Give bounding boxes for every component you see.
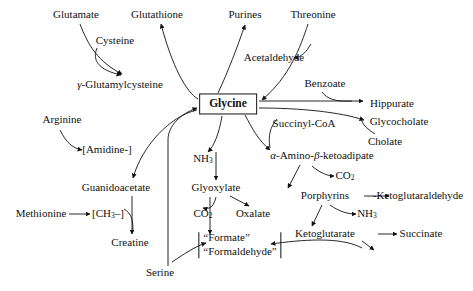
node-cysteine[interactable]: Cysteine	[96, 35, 135, 47]
arrow-ketoadipate-to-co2	[312, 166, 334, 176]
bracket-lines: “Formate” “Formaldehyde”	[203, 231, 276, 259]
node-benzoate[interactable]: Benzoate	[305, 78, 346, 90]
node-glyoxylate[interactable]: Glyoxylate	[192, 182, 241, 194]
arrow-arginine-to-amidine	[60, 130, 82, 150]
arrow-glycine-to-nh3	[208, 116, 222, 152]
arrow-aminolevulinate-to-nh3	[330, 205, 356, 214]
co2-right-pre: CO	[335, 169, 350, 181]
arrow-glyoxylate-to-oxalate	[230, 196, 249, 206]
nh3-upper-pre: NH	[193, 152, 209, 164]
node-porphyrins[interactable]: -Ketoglutaraldehyde	[373, 190, 463, 202]
co2-left-pre: CO	[193, 207, 208, 219]
co2-right-sub: 2	[351, 173, 355, 182]
node-glycine[interactable]: Glycine	[199, 93, 257, 114]
formate-label: “Formate”	[203, 231, 276, 245]
node-co2-left[interactable]: CO2	[193, 208, 212, 221]
node-gamma-glutamylcysteine[interactable]: γ-Glutamylcysteine	[77, 79, 163, 91]
node-methyl-group[interactable]: [CH3–]	[92, 208, 124, 221]
methyl-post: –]	[115, 207, 124, 219]
node-cholate[interactable]: Cholate	[368, 136, 402, 148]
arrow-benzoate-to-hippurate	[322, 92, 352, 101]
co2-left-sub: 2	[209, 211, 213, 220]
node-threonine[interactable]: Threonine	[290, 9, 335, 21]
node-glycocholate[interactable]: Glycocholate	[370, 116, 429, 128]
node-creatine[interactable]: Creatine	[111, 237, 148, 249]
node-acetaldehyde[interactable]: Acetaldehyde	[244, 52, 304, 64]
node-alpha-amino-beta-ketoadipate[interactable]: α-Amino-β-ketoadipate	[270, 150, 374, 162]
node-glutamate[interactable]: Glutamate	[53, 9, 99, 21]
left-bracket-bar	[198, 232, 199, 258]
arrow-glycine-to-glutathione	[161, 24, 198, 99]
right-bracket-bar	[281, 232, 282, 258]
node-succinyl-coa[interactable]: Succinyl-CoA	[273, 118, 336, 130]
node-arginine[interactable]: Arginine	[43, 114, 82, 126]
ketoadipate-mid: -Amino-	[276, 149, 314, 161]
formaldehyde-label: “Formaldehyde”	[203, 245, 276, 259]
ketoadipate-end: -ketoadipate	[319, 149, 373, 161]
arrow-ketoglutaraldehyde-to-succinate	[362, 241, 374, 250]
node-amidine[interactable]: [Amidine-]	[82, 144, 131, 156]
node-oxalate[interactable]: Oxalate	[236, 208, 270, 220]
methyl-pre: [CH	[92, 207, 111, 219]
arrow-glycine-to-guanidoacetate	[133, 110, 197, 178]
node-gamma-glutamylcysteine-label: -Glutamylcysteine	[82, 78, 163, 90]
glycine-pathway-diagram: Glycine Glutamate Cysteine Glutathione γ…	[0, 0, 473, 291]
node-delta-aminolevulinate[interactable]: Porphyrins	[301, 190, 349, 202]
node-alpha-ketoglutaraldehyde[interactable]: Ketoglutarate	[295, 228, 355, 240]
nh3-lower-sub: 3	[373, 211, 377, 220]
node-hippurate[interactable]: Hippurate	[370, 98, 414, 110]
arrow-glycine-to-ketoadipate	[245, 115, 270, 150]
nh3-upper-sub: 3	[209, 156, 213, 165]
node-co2-right[interactable]: CO2	[335, 170, 354, 183]
arrow-glycine-to-purines	[218, 25, 245, 93]
node-methionine[interactable]: Methionine	[16, 208, 67, 220]
nh3-lower-pre: NH	[357, 207, 373, 219]
node-purines[interactable]: Purines	[229, 9, 262, 21]
node-delta-aminolevulinate-label: Porphyrins	[301, 189, 349, 201]
arrow-aminolevulinate-to-ketoglutaraldehyde	[312, 205, 322, 226]
node-guanidoacetate[interactable]: Guanidoacetate	[82, 182, 150, 194]
node-alpha-ketoglutaraldehyde-label: Ketoglutarate	[295, 227, 355, 239]
node-ammonia-lower[interactable]: NH3	[357, 208, 377, 221]
node-ketoglutarate[interactable]: Succinate	[400, 228, 443, 240]
node-serine[interactable]: Serine	[146, 267, 174, 279]
node-glutathione[interactable]: Glutathione	[131, 9, 183, 21]
node-formate-formaldehyde[interactable]: “Formate” “Formaldehyde”	[194, 231, 285, 259]
node-ammonia-upper[interactable]: NH3	[193, 153, 213, 166]
arrow-ketoadipate-to-aminolevulinate	[288, 165, 300, 188]
